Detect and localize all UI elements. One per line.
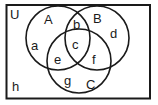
region-h-label: h xyxy=(12,79,19,94)
set-b-label: B xyxy=(93,11,102,26)
region-c-label: c xyxy=(72,37,79,52)
region-e-label: e xyxy=(54,52,61,67)
set-a-label: A xyxy=(44,12,53,27)
venn-diagram: U A B C a b c d e f g h xyxy=(0,0,158,105)
region-d-label: d xyxy=(110,26,117,41)
set-c-label: C xyxy=(86,77,95,92)
universe-label: U xyxy=(10,7,19,22)
region-b-label: b xyxy=(73,17,80,32)
region-g-label: g xyxy=(64,73,71,88)
region-f-label: f xyxy=(92,52,96,67)
region-a-label: a xyxy=(31,38,39,53)
